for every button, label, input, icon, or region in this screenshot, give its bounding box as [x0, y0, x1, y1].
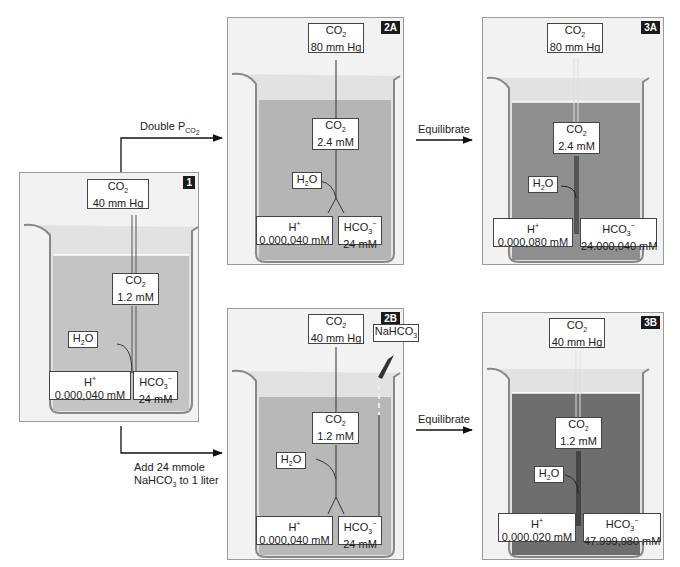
h-ion-box: H+0.000,020 mM: [498, 513, 576, 542]
h2o-box: H2O: [276, 452, 306, 469]
h-ion-box: H+0.000,040 mM: [256, 216, 333, 245]
panel-3b: 3B CO240 mm Hg CO21.2 mM H2O H+0.000,020…: [482, 312, 664, 560]
panel-2b: 2B CO240 mm Hg NaHCO3 CO21.2 mM H2O H+0.…: [227, 308, 404, 560]
panel-2a: 2A CO280 mm Hg CO22.4 mM H2O H+0.000,040…: [227, 17, 404, 265]
co2-dissolved-box: CO22.4 mM: [312, 118, 359, 150]
equilibrate-label-top: Equilibrate: [418, 123, 470, 136]
add-nahco3-label: Add 24 mmoleNaHCO3 to 1 liter: [134, 461, 219, 491]
co2-gas-box: CO240 mm Hg: [87, 179, 149, 209]
h2o-box: H2O: [292, 172, 322, 189]
co2-gas-box: CO280 mm Hg: [547, 23, 603, 53]
h-ion-box: H+0.000,040 mM: [49, 371, 131, 400]
bicarbonate-box: HCO3−24.000,040 mM: [580, 218, 657, 247]
panel-3a: 3A CO280 mm Hg CO22.4 mM H2O H+0.000,080…: [482, 17, 664, 265]
bicarbonate-box: HCO3−24 mM: [338, 516, 382, 545]
h-ion-box: H+0.000,080 mM: [493, 218, 573, 247]
h2o-box: H2O: [534, 466, 564, 483]
bicarbonate-box: HCO3−47.999,980 mM: [583, 513, 661, 542]
equilibrate-label-bottom: Equilibrate: [418, 413, 470, 426]
bicarbonate-box: HCO3−24 mM: [338, 216, 382, 245]
co2-dissolved-box: CO21.2 mM: [312, 412, 359, 444]
co2-gas-box: CO280 mm Hg: [308, 23, 364, 53]
bicarbonate-box: HCO3−24 mM: [133, 371, 178, 400]
double-pco2-label: Double PCO2: [140, 120, 200, 140]
co2-dissolved-box: CO21.2 mM: [555, 417, 602, 449]
nahco3-box: NaHCO3: [373, 324, 419, 342]
co2-gas-box: CO240 mm Hg: [308, 314, 364, 344]
h2o-box: H2O: [68, 331, 98, 348]
h2o-box: H2O: [528, 176, 558, 193]
co2-gas-box: CO240 mm Hg: [549, 318, 605, 348]
co2-dissolved-box: CO22.4 mM: [553, 122, 600, 154]
co2-dissolved-box: CO21.2 mM: [112, 273, 159, 305]
panel-1: 1 CO240 mm Hg CO21.2 mM H2O H+0.000,040 …: [19, 172, 199, 422]
h-ion-box: H+0.000,040 mM: [256, 516, 333, 545]
